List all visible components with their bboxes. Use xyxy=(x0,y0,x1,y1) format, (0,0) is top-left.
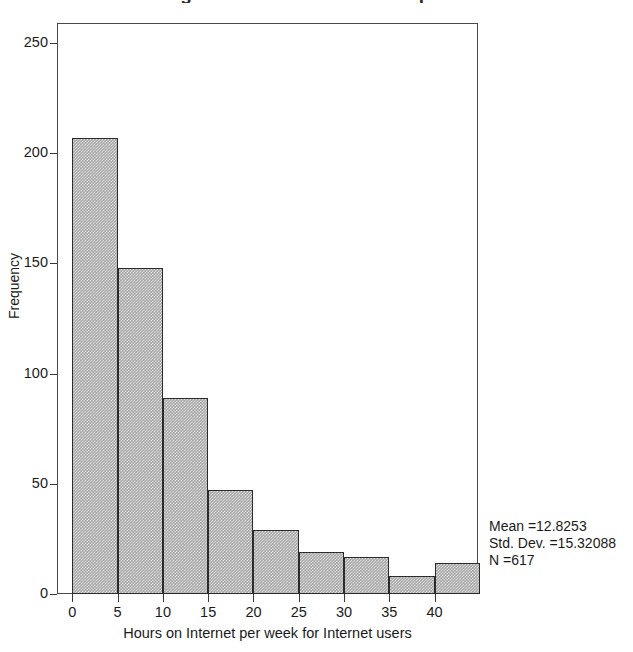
stat-mean: Mean =12.8253 xyxy=(489,518,616,535)
x-axis-tick-label: 35 xyxy=(369,604,409,620)
x-axis-tick-label: 30 xyxy=(324,604,364,620)
x-axis-tick-label: 25 xyxy=(279,604,319,620)
y-axis-tick xyxy=(50,263,57,264)
x-axis-tick xyxy=(389,594,390,602)
histogram-figure: Histogram of Hours on Internet per week … xyxy=(0,0,633,652)
x-axis-tick-label: 0 xyxy=(52,604,92,620)
x-axis-tick xyxy=(72,594,73,602)
x-axis-tick xyxy=(208,594,209,602)
statistics-annotation: Mean =12.8253 Std. Dev. =15.32088 N =617 xyxy=(489,518,616,569)
x-axis-title: Hours on Internet per week for Internet … xyxy=(57,625,478,641)
y-axis-tick-label: 200 xyxy=(8,144,48,160)
stat-n: N =617 xyxy=(489,552,616,569)
x-axis-tick-label: 5 xyxy=(98,604,138,620)
x-axis-tick-label: 20 xyxy=(233,604,273,620)
y-axis-tick xyxy=(50,43,57,44)
x-axis-tick-label: 15 xyxy=(188,604,228,620)
y-axis-tick xyxy=(50,153,57,154)
x-axis-tick xyxy=(253,594,254,602)
y-axis-tick xyxy=(50,484,57,485)
y-axis-tick xyxy=(50,594,57,595)
y-axis-tick-label: 50 xyxy=(8,475,48,491)
x-axis-tick xyxy=(344,594,345,602)
y-axis-tick-label: 100 xyxy=(8,365,48,381)
y-axis-tick-label: 250 xyxy=(8,34,48,50)
x-axis-tick xyxy=(299,594,300,602)
y-axis-tick-label: 0 xyxy=(8,585,48,601)
x-axis-tick-label: 10 xyxy=(143,604,183,620)
x-axis-tick-label: 40 xyxy=(415,604,455,620)
stat-std-dev: Std. Dev. =15.32088 xyxy=(489,535,616,552)
y-axis-title: Frequency xyxy=(6,241,22,331)
y-axis-tick xyxy=(50,374,57,375)
x-axis-tick xyxy=(163,594,164,602)
x-axis-tick xyxy=(435,594,436,602)
x-axis-tick xyxy=(118,594,119,602)
